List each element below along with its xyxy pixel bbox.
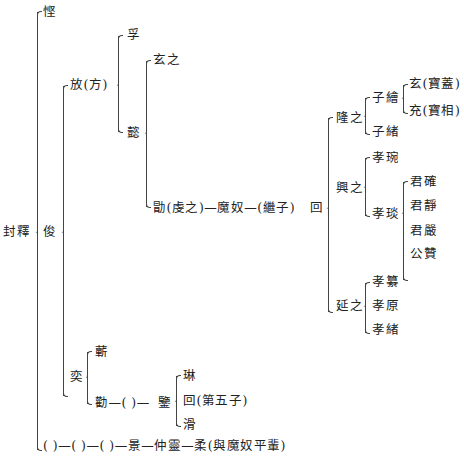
bracket-hui-mid (328, 206, 332, 212)
node-quan-line: 勸—( )— (95, 395, 150, 411)
bracket-jun (63, 86, 64, 396)
node-xu-line: 勖(虔之)—魔奴—(繼子) (153, 200, 295, 216)
node-yi: 懿 (127, 125, 141, 141)
node-lin: 琳 (183, 368, 197, 384)
node-junque: 君確 (410, 174, 437, 190)
bracket-hui (328, 118, 329, 312)
node-xiaoyuan: 孝原 (372, 298, 399, 314)
node-hui-fifth: 回(第五子) (183, 393, 248, 409)
node-hua: 滑 (183, 417, 197, 433)
node-jun: 俊 (43, 224, 57, 240)
node-zihui: 子繪 (372, 90, 399, 106)
node-zixu: 子緒 (372, 124, 399, 140)
bracket-yi2-mid (87, 375, 91, 381)
bracket-yi-mid (146, 131, 150, 137)
bracket-xiaoyan (403, 182, 404, 280)
node-yi2: 奕 (70, 369, 84, 385)
node-gongzan: 公贊 (410, 246, 437, 262)
node-junjing: 君靜 (410, 198, 437, 214)
node-longzhi: 隆之 (336, 110, 363, 126)
node-fu: 孚 (127, 27, 141, 43)
node-fengshi: 封釋 (3, 224, 30, 240)
bracket-longzhi-mid (365, 114, 369, 120)
node-chong-baoxiang: 充(寶相) (409, 103, 460, 119)
bracket-jun-mid (63, 230, 67, 236)
bracket-xiaoyan-mid (403, 211, 407, 217)
node-yanzhi: 延之 (336, 298, 363, 314)
node-qian: 悭 (43, 4, 57, 20)
node-xiaoyan: 孝琰 (372, 206, 399, 222)
bracket-jian-mid (176, 399, 180, 405)
bracket-xingzhi-mid (365, 185, 369, 191)
node-xuanzhi: 玄之 (153, 52, 180, 68)
node-xiaoxu: 孝緒 (372, 322, 399, 338)
node-xiaowan: 孝琬 (372, 150, 399, 166)
bracket-yanzhi-mid (365, 304, 369, 310)
node-fang: 放(方) (70, 77, 108, 93)
node-jian: 鑒 (158, 395, 172, 411)
node-qi: 蘄 (95, 344, 109, 360)
node-xuan-baogai: 玄(寶蓋) (409, 76, 460, 92)
bracket-fengshi-mid (37, 230, 41, 236)
node-hui: 回 (310, 200, 324, 216)
node-xingzhi: 興之 (336, 180, 363, 196)
node-junyan: 君嚴 (410, 223, 437, 239)
bracket-fang-mid (118, 83, 122, 89)
node-xiaozuan: 孝纂 (372, 274, 399, 290)
bracket-zihui-mid (403, 96, 407, 102)
node-rou-line: ( )—( )—( )—景—仲靈—柔(與魔奴平輩) (43, 438, 286, 454)
